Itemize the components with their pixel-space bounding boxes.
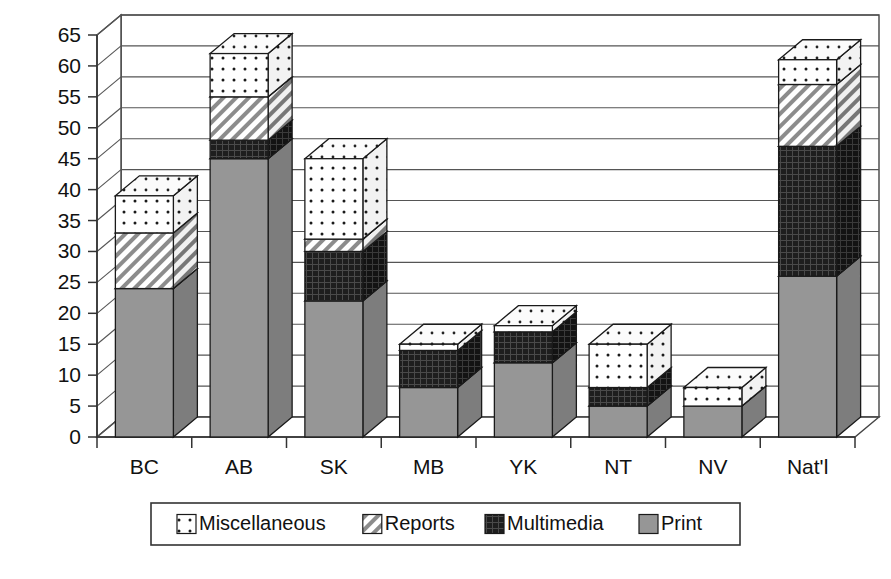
y-tick-label: 45 [58, 147, 81, 170]
bar-segment[interactable] [210, 139, 292, 437]
x-axis-label: NV [698, 455, 727, 478]
dark-swatch-icon [485, 515, 504, 534]
y-tick-label: 30 [58, 239, 81, 262]
y-tick-label: 55 [58, 85, 81, 108]
bar-segment-front [779, 60, 837, 85]
bar-segment-side [173, 269, 197, 437]
bar-group[interactable] [115, 176, 197, 437]
x-axis-label: YK [509, 455, 537, 478]
bar-segment-front [305, 301, 363, 437]
bar-segment[interactable] [779, 126, 861, 276]
bar-segment-front [115, 233, 173, 289]
y-tick-label: 65 [58, 23, 81, 46]
bar-segment[interactable] [779, 256, 861, 437]
y-tick-label: 60 [58, 54, 81, 77]
x-axis-label: NT [604, 455, 632, 478]
bar-segment-side [837, 256, 861, 437]
legend-label: Multimedia [507, 512, 605, 534]
bar-segment-front [210, 140, 268, 159]
bar-segment-front [400, 350, 458, 387]
bar-segment[interactable] [210, 34, 292, 97]
y-tick-label: 20 [58, 301, 81, 324]
legend-item[interactable]: Miscellaneous [177, 512, 326, 534]
bar-group[interactable] [779, 40, 861, 437]
chart-container: 05101520253035404550556065 BCABSKMBYKNTN… [0, 0, 891, 579]
bar-segment[interactable] [305, 281, 387, 437]
bar-segment-side [268, 139, 292, 437]
bar-segment-front [494, 363, 552, 437]
legend-item[interactable]: Print [639, 512, 703, 534]
x-axis-label: SK [320, 455, 348, 478]
legend-item[interactable]: Reports [363, 512, 455, 534]
bar-segment-front [494, 332, 552, 363]
bar-segment-front [589, 344, 647, 387]
legend-label: Print [661, 512, 703, 534]
bar-segment-front [210, 97, 268, 140]
bar-group[interactable] [210, 34, 292, 437]
x-axis-label: BC [130, 455, 159, 478]
bar-segment[interactable] [589, 324, 671, 387]
bar-segment-front [305, 251, 363, 300]
x-axis-label: MB [413, 455, 445, 478]
bar-segment-front [210, 54, 268, 97]
x-axis-label: Nat'l [787, 455, 828, 478]
bar-segment[interactable] [115, 269, 197, 437]
legend-label: Reports [385, 512, 455, 534]
bar-segment-front [589, 406, 647, 437]
y-tick-label: 50 [58, 116, 81, 139]
bar-segment-front [305, 239, 363, 251]
y-tick-label: 35 [58, 209, 81, 232]
bar-group[interactable] [400, 324, 482, 437]
bar-segment-front [305, 159, 363, 239]
legend-label: Miscellaneous [199, 512, 326, 534]
gray-swatch-icon [639, 515, 658, 534]
y-tick-label: 5 [69, 394, 81, 417]
bar-segment-front [589, 388, 647, 407]
stacked-bar-chart: 05101520253035404550556065 BCABSKMBYKNTN… [0, 0, 891, 579]
bar-segment-side [363, 281, 387, 437]
bar-group[interactable] [305, 139, 387, 437]
bar-group[interactable] [494, 306, 576, 437]
bar-group[interactable] [684, 368, 766, 437]
bar-segment-front [684, 388, 742, 407]
bar-segment-side [837, 126, 861, 276]
y-tick-label: 10 [58, 363, 81, 386]
bar-segment-front [115, 289, 173, 437]
bar-segment[interactable] [305, 139, 387, 239]
bar-segment-front [115, 196, 173, 233]
bar-segment-front [779, 146, 837, 276]
x-axis-label: AB [225, 455, 253, 478]
x-axis: BCABSKMBYKNTNVNat'l [97, 437, 855, 478]
hatch-swatch-icon [363, 515, 382, 534]
bar-segment-front [684, 406, 742, 437]
chart-legend: MiscellaneousReportsMultimediaPrint [151, 503, 740, 545]
bar-group[interactable] [589, 324, 671, 437]
bar-segment-front [779, 276, 837, 437]
y-tick-label: 25 [58, 270, 81, 293]
bar-segment-front [210, 159, 268, 437]
bar-segment-front [400, 388, 458, 437]
y-tick-label: 0 [69, 425, 81, 448]
y-tick-label: 40 [58, 178, 81, 201]
y-tick-label: 15 [58, 332, 81, 355]
bar-segment-front [494, 326, 552, 332]
dotted-swatch-icon [177, 515, 196, 534]
bar-segment-front [779, 84, 837, 146]
legend-item[interactable]: Multimedia [485, 512, 605, 534]
bar-segment-front [400, 344, 458, 350]
